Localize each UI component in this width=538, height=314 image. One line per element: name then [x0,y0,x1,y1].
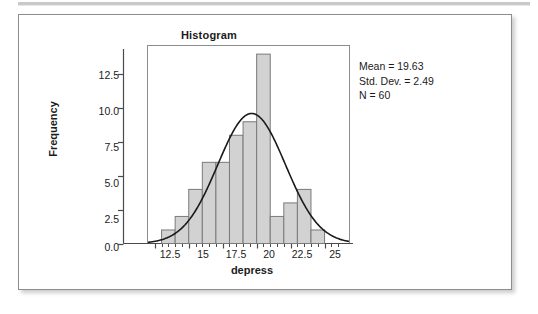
x-axis-title: depress [147,264,357,276]
stat-n: N = 60 [359,88,434,103]
histogram-bar [216,162,230,243]
stat-std-dev: Std. Dev. = 2.49 [359,74,434,89]
y-tick-label-2-5: 2.5 [79,213,119,225]
page-title: Histogram [19,29,399,41]
histogram-bar [243,122,257,244]
histogram-bar [257,54,271,243]
y-tick-label-5-0: 5.0 [79,177,119,189]
histogram-bar [297,189,311,243]
y-tick-label-10-0: 10.0 [79,105,119,117]
histogram-bar [229,135,243,243]
histogram-bar [311,230,325,244]
histogram-bars [162,54,325,243]
histogram-bar [284,203,298,244]
figure-card: Histogram Frequency depress 12.5 10.0 7.… [18,14,512,290]
statistics-annotation: Mean = 19.63 Std. Dev. = 2.49 N = 60 [359,59,434,103]
y-tick-label-7-5: 7.5 [79,141,119,153]
histogram-bar [175,216,189,243]
y-axis-title: Frequency [47,69,59,189]
y-tick-label-12-5: 12.5 [79,69,119,81]
top-divider-rule-shadow [18,5,530,6]
y-tick-label-0-0: 0.0 [79,241,119,253]
histogram-bar [270,216,284,243]
histogram-plot: Histogram Frequency depress 12.5 10.0 7.… [19,15,513,291]
x-tick-label-25: 25 [313,248,357,260]
stat-mean: Mean = 19.63 [359,59,434,74]
